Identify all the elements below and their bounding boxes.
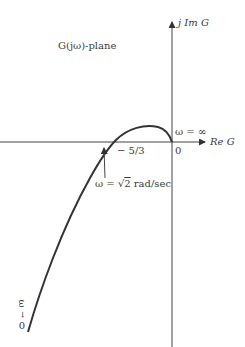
omega-eq-text: ω = xyxy=(95,178,118,189)
origin-label-text: 0 xyxy=(175,145,181,156)
real-axis-label: Re G xyxy=(210,136,235,147)
unit-text: rad/sec xyxy=(131,178,171,189)
omega-infinity-text: ω = ∞ xyxy=(175,126,206,137)
crossing-frequency-label: ω = √2 rad/sec xyxy=(95,178,171,189)
origin-label: 0 xyxy=(175,145,181,156)
imag-axis-label: j Im G xyxy=(178,17,209,28)
polar-curve xyxy=(28,126,172,332)
crossing-label-text: − 5/3 xyxy=(117,145,145,156)
real-axis-label-text: Re G xyxy=(210,136,235,147)
plane-label-text: G(jω)-plane xyxy=(58,40,116,51)
polar-plot xyxy=(0,0,245,347)
omega-zero-label: ω → 0 xyxy=(16,298,28,331)
down-arrow-icon: → xyxy=(17,309,28,321)
imag-axis-label-text: j Im G xyxy=(178,17,209,28)
plane-label: G(jω)-plane xyxy=(58,40,116,51)
crossing-label: − 5/3 xyxy=(117,145,145,156)
omega-infinity-label: ω = ∞ xyxy=(175,126,206,137)
omega-zero-value: 0 xyxy=(16,320,28,331)
